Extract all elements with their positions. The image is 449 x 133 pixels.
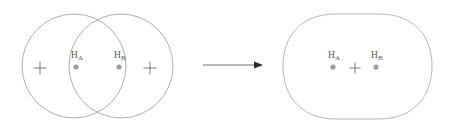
- plus-sign-left-nucleus: [34, 62, 47, 75]
- atom-label-hb-right: HB: [371, 50, 383, 62]
- nucleus-dot-ha-left: [73, 64, 78, 69]
- atom-label-ha-left-subscript: A: [78, 54, 83, 62]
- plus-sign-right-nucleus: [144, 62, 157, 75]
- figure-canvas: HA HB HA: [0, 0, 449, 133]
- atom-label-hb-left-subscript: B: [121, 54, 126, 62]
- plus-sign-center-bond: [350, 63, 361, 74]
- left-panel-group: HA HB: [22, 14, 173, 118]
- atom-label-ha-right-subscript: A: [335, 54, 340, 62]
- molecular-orbital-outline: [283, 14, 432, 119]
- orbital-overlap-figure: HA HB HA: [0, 0, 449, 133]
- nucleus-dot-hb-left: [116, 64, 121, 69]
- atom-label-hb-right-subscript: B: [378, 54, 383, 62]
- atom-label-ha-left: HA: [71, 50, 83, 62]
- right-panel-group: HA HB: [283, 14, 432, 119]
- nucleus-dot-hb-right: [373, 64, 378, 69]
- transformation-arrow-group: [203, 62, 263, 69]
- atom-label-ha-right: HA: [328, 50, 340, 62]
- nucleus-dot-ha-right: [330, 64, 335, 69]
- transformation-arrow-head: [254, 62, 263, 69]
